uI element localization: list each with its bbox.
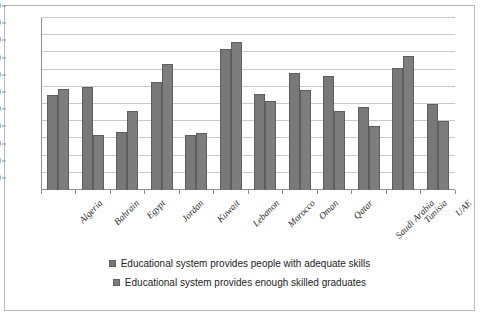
x-axis-tick-mark [179,190,180,194]
x-axis-tick-mark [110,190,111,194]
x-axis-tick-mark [351,190,352,194]
x-axis-tick-mark [144,190,145,194]
y-axis-tick-mark [2,23,6,24]
x-axis-tick-mark [248,190,249,194]
bar [323,76,334,190]
bar [93,135,104,190]
legend-swatch-icon [109,260,116,267]
bar-group [283,18,318,190]
bar [254,94,265,190]
y-axis-tick-label: 40 [0,104,1,114]
bar [334,111,345,190]
x-axis-tick-mark [75,190,76,194]
legend-item: Educational system provides people with … [109,258,371,269]
y-axis-tick-label: 90 [0,18,1,28]
legend-swatch-icon [113,279,120,286]
bar [82,87,93,190]
bar [220,49,231,190]
x-axis-category-label: Morocco [286,198,318,230]
plot-area [41,18,455,190]
y-axis-tick-label: 80 [0,35,1,45]
chart-frame: 0102030405060708090100 AlgeriaBahrainEgy… [4,5,475,311]
y-axis-tick-mark [2,178,6,179]
bar [300,90,311,190]
bar [162,64,173,190]
bar-group [214,18,249,190]
y-axis-tick-mark [2,6,6,7]
y-axis-tick-mark [2,143,6,144]
y-axis-tick-mark [2,126,6,127]
y-axis-tick-mark [2,160,6,161]
bar [427,104,438,190]
bar [47,95,58,190]
bar [231,42,242,190]
y-axis-tick-mark [2,74,6,75]
bar [151,82,162,190]
bar [392,68,403,190]
x-axis-category-label: Algeria [77,198,105,226]
x-axis-tick-mark [455,190,456,194]
bar [265,101,276,190]
x-axis-tick-mark [317,190,318,194]
y-axis-tick-mark [2,109,6,110]
x-axis-tick-mark [386,190,387,194]
bar-group [421,18,456,190]
bar-group [248,18,283,190]
bar-group [76,18,111,190]
legend-label: Educational system provides enough skill… [125,277,366,288]
bar [116,132,127,190]
bar [185,135,196,190]
bar [403,56,414,190]
bar-group [317,18,352,190]
y-axis-ticks: 0102030405060708090100 [0,6,1,178]
x-axis-category-label: UAE [454,198,475,219]
x-axis-category-label: Lebanon [251,198,282,229]
y-axis-tick-label: 50 [0,87,1,97]
legend-item: Educational system provides enough skill… [113,277,366,288]
x-axis-category-label: Bahrain [112,198,142,228]
y-axis-tick-label: 10 [0,156,1,166]
y-axis-tick-label: 60 [0,70,1,80]
y-axis-tick-mark [2,40,6,41]
bar-groups [41,18,455,190]
y-axis-tick-label: 30 [0,121,1,131]
bar [289,73,300,190]
bar [438,121,449,190]
bar [358,107,369,190]
y-axis-tick-label: 0 [0,173,1,183]
x-axis-category-label: Oman [317,198,341,222]
bar-group [110,18,145,190]
bar-group [145,18,180,190]
y-axis-tick-label: 20 [0,139,1,149]
bar-group [352,18,387,190]
bar-group [386,18,421,190]
x-axis-category-label: Egypt [144,198,167,221]
x-axis-tick-mark [282,190,283,194]
y-axis-tick-mark [2,57,6,58]
bar [127,111,138,190]
bar-group [179,18,214,190]
x-axis-category-label: Jordan [180,198,207,225]
legend-label: Educational system provides people with … [121,258,371,269]
x-axis-tick-mark [420,190,421,194]
y-axis-tick-label: 70 [0,53,1,63]
x-axis-tick-mark [213,190,214,194]
bar [196,133,207,190]
x-axis-tick-mark [41,190,42,194]
y-axis-tick-mark [2,92,6,93]
chart-legend: Educational system provides people with … [5,258,474,288]
bar [369,126,380,190]
x-axis-category-label: Qatar [351,198,375,222]
bar [58,89,69,190]
y-axis-tick-label: 100 [0,1,1,11]
x-axis-category-labels: AlgeriaBahrainEgyptJordanKuwaitLebanonMo… [41,196,455,252]
bar-group [41,18,76,190]
x-axis-category-label: Kuwait [215,198,242,225]
